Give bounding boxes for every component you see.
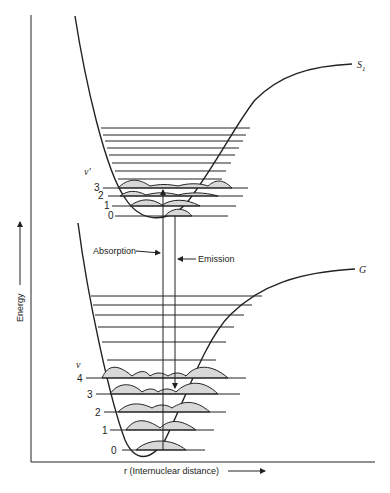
g-vib-symbol: ν <box>76 359 81 370</box>
g-level-3: 3 <box>87 389 93 400</box>
y-axis-label: Energy <box>15 293 25 322</box>
absorption-pointer <box>136 251 160 253</box>
g-wavefunctions <box>102 367 228 450</box>
s1-levels <box>101 128 250 179</box>
franck-condon-diagram: Energy r (Internuclear distance) S1 ν′ 3… <box>0 0 390 493</box>
g-level-4: 4 <box>77 373 83 384</box>
g-levels <box>91 296 262 360</box>
s1-vib-symbol: ν′ <box>84 166 91 177</box>
g-level-1: 1 <box>102 425 108 436</box>
g-level-0: 0 <box>111 445 117 456</box>
g-label: G <box>359 264 366 275</box>
g-level-2: 2 <box>95 407 101 418</box>
emission-label: Emission <box>198 254 235 264</box>
absorption-label: Absorption <box>93 246 136 256</box>
x-axis-label: r (Internuclear distance) <box>124 466 219 476</box>
s1-label: S1 <box>357 59 366 73</box>
s1-level-0: 0 <box>108 210 114 221</box>
